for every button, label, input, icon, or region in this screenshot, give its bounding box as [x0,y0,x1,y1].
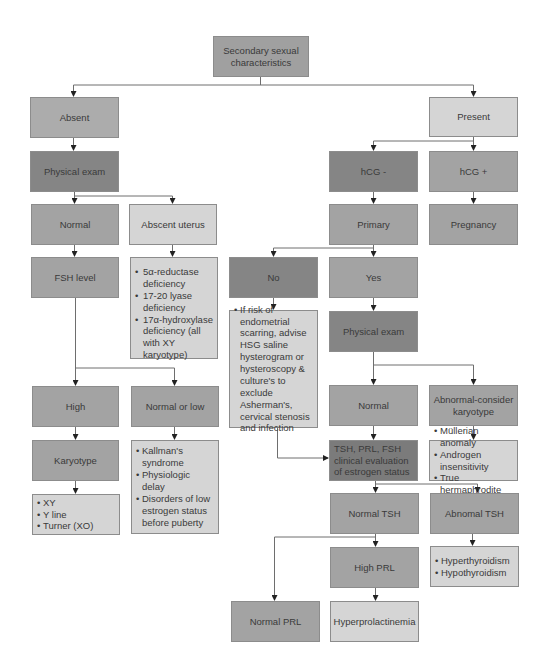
node-primary: Primary [329,204,418,245]
node-label: hCG - [361,166,386,178]
list-item: Müllerian anomaly [434,425,513,449]
node-normal-right: Normal [329,385,418,426]
node-high-prl: High PRL [330,547,419,588]
node-karyotype: Karyotype [32,440,119,481]
node-label: Normal or low [146,401,205,413]
node-label: Physical exam [343,326,404,338]
node-label: TSH, PRL, FSH clinical evaluation of est… [334,443,413,479]
list-item: Physiologic delay [136,469,214,493]
node-no: No [229,257,318,298]
node-karyotype-results-list: XY Y line Turner (XO) [32,494,120,535]
node-label: Pregnancy [451,219,496,231]
node-present: Present [429,97,518,137]
node-no-advice: If risk of endometrial scarring, advise … [229,310,318,428]
list-item: Disorders of low estrogen status before … [136,493,214,529]
node-normal-tsh: Normal TSH [330,493,419,534]
amenorrhea-flowchart: Secondary sexual characteristics Absent … [0,0,545,668]
node-hyperprolactinemia: Hyperprolactinemia [330,601,419,642]
node-label: No [267,272,279,284]
node-label: Normal PRL [250,616,302,628]
node-absent: Absent [30,97,119,138]
node-label: Present [457,111,490,123]
node-label: Absent [60,112,90,124]
list-item: Kallman's syndrome [136,445,214,469]
node-label: Abscent uterus [141,219,204,231]
node-label: hCG + [460,166,488,178]
node-tsh-prl-fsh-evaluation: TSH, PRL, FSH clinical evaluation of est… [329,440,418,481]
node-high: High [32,386,119,427]
list-item: 17α-hydroxylase deficiency (all with XY … [135,314,213,362]
node-label: High PRL [354,562,395,574]
node-label: Secondary sexual characteristics [217,45,305,69]
root-node-secondary-sexual-characteristics: Secondary sexual characteristics [213,36,309,77]
node-yes: Yes [329,257,418,298]
node-label: Abnormal-consider karyotype [433,394,514,418]
node-abnormal-causes-list: Müllerian anomaly Androgen insensitivity… [429,440,518,481]
node-physical-exam-left: Physical exam [30,151,119,192]
node-label: Yes [366,272,382,284]
list-item: Turner (XO) [37,520,93,532]
list-item: Y line [37,509,93,521]
node-abnormal-consider-karyotype: Abnormal-consider karyotype [429,385,518,426]
list-item: Hyperthyroidism [435,555,510,567]
node-normal-left: Normal [31,204,119,245]
node-label: Primary [357,219,390,231]
list-item: XY [37,497,93,509]
node-label: Hyperprolactinemia [334,616,416,628]
list-item: Hypothyroidism [435,567,510,579]
node-abscent-uterus: Abscent uterus [129,204,217,245]
list-item: 17-20 lyase deficiency [135,290,213,314]
node-normal-prl: Normal PRL [231,601,320,642]
list-item: 5α-reductase deficiency [135,266,213,290]
node-label: Physical exam [44,166,105,178]
node-abnormal-tsh: Abnomal TSH [430,493,519,534]
node-hcg-positive: hCG + [429,151,518,192]
node-normal-or-low: Normal or low [131,386,219,427]
node-label: FSH level [54,272,95,284]
node-low-causes-list: Kallman's syndrome Physiologic delay Dis… [131,440,219,534]
node-thyroid-causes-list: Hyperthyroidism Hypothyroidism [430,546,519,587]
node-physical-exam-right: Physical exam [329,311,418,352]
list-item: If risk of endometrial scarring, advise … [234,304,313,435]
node-label: Normal [358,400,389,412]
node-uterus-causes-list: 5α-reductase deficiency 17-20 lyase defi… [130,257,218,359]
node-pregnancy: Pregnancy [429,204,518,245]
node-label: Normal TSH [348,508,400,520]
list-item: Androgen insensitivity [434,449,513,473]
node-label: Normal [60,219,91,231]
node-hcg-negative: hCG - [329,151,418,192]
node-fsh-level: FSH level [31,257,119,298]
node-label: Karyotype [54,455,97,467]
node-label: High [66,401,86,413]
node-label: Abnomal TSH [445,508,504,520]
